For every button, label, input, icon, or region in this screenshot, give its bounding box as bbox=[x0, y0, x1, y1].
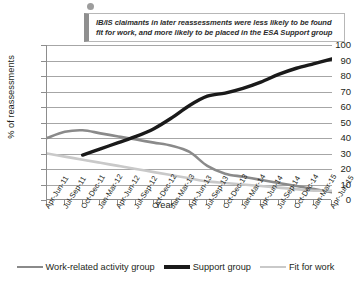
x-axis-title: Year bbox=[155, 200, 174, 210]
series-line bbox=[83, 59, 332, 155]
legend-swatch-icon bbox=[164, 265, 190, 268]
legend-item[interactable]: Support group bbox=[164, 262, 251, 272]
legend-item[interactable]: Fit for work bbox=[260, 262, 334, 272]
callout-box: IB/IS claimants in later reassessments w… bbox=[84, 13, 345, 42]
chart-legend: Work-related activity groupSupport group… bbox=[0, 262, 351, 272]
legend-swatch-icon bbox=[260, 266, 286, 269]
legend-item[interactable]: Work-related activity group bbox=[17, 262, 155, 272]
legend-label: Support group bbox=[193, 262, 251, 272]
legend-swatch-icon bbox=[17, 266, 43, 269]
callout-text: IB/IS claimants in later reassessments w… bbox=[96, 18, 339, 37]
legend-label: Fit for work bbox=[289, 262, 334, 272]
y-axis-title: % of reassessments bbox=[6, 32, 16, 162]
bullet-dot-icon bbox=[87, 3, 94, 10]
legend-label: Work-related activity group bbox=[46, 262, 155, 272]
